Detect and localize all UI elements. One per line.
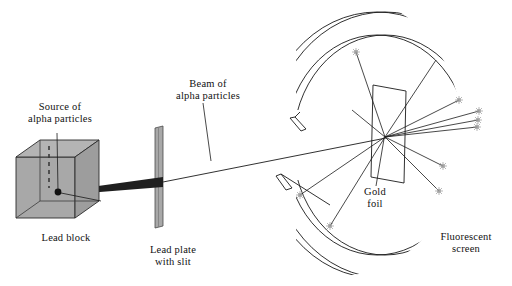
flash-icon bbox=[435, 187, 443, 195]
lead-plate-with-slit bbox=[155, 126, 163, 228]
flash-icon bbox=[326, 222, 334, 230]
label-beam: Beam of alpha particles bbox=[161, 78, 255, 102]
label-source: Source of alpha particles bbox=[8, 101, 112, 125]
flash-icon bbox=[439, 162, 447, 170]
flash-icon bbox=[475, 107, 483, 115]
label-gold-foil: Gold foil bbox=[347, 186, 403, 210]
flash-icon bbox=[455, 96, 463, 104]
flash-icon bbox=[296, 191, 304, 199]
screen-upper-cut-end bbox=[290, 117, 306, 131]
leader-beam bbox=[203, 103, 211, 161]
flash-icon bbox=[474, 116, 482, 124]
flash-icon bbox=[473, 123, 481, 131]
diagram-canvas: Source of alpha particles Lead block Bea… bbox=[0, 0, 512, 286]
screen-band-edge-upper bbox=[295, 112, 300, 117]
label-lead-block: Lead block bbox=[16, 232, 116, 244]
flash-icon bbox=[352, 48, 360, 56]
label-lead-plate: Lead plate with slit bbox=[128, 244, 218, 268]
label-fluorescent-screen: Fluorescent screen bbox=[424, 231, 508, 255]
alpha-beam-line bbox=[163, 138, 386, 182]
